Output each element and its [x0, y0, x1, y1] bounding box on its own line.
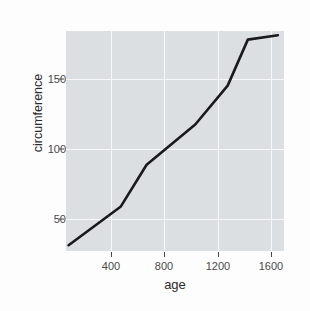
series-line-circumference	[66, 31, 284, 251]
y-tick-label-150: 150	[6, 73, 66, 85]
y-tick-mark-100	[59, 149, 64, 150]
x-tick-label-1200: 1200	[188, 260, 248, 272]
x-tick-label-1600: 1600	[241, 260, 301, 272]
y-tick-mark-150	[59, 79, 64, 80]
x-tick-mark-400	[111, 252, 112, 257]
x-axis-title: age	[66, 277, 284, 292]
x-tick-label-400: 400	[81, 260, 141, 272]
x-tick-mark-1600	[271, 252, 272, 257]
chart-canvas: circumference 50 100 150 400 800 1200 16…	[0, 0, 310, 311]
x-tick-mark-800	[164, 252, 165, 257]
x-tick-label-800: 800	[134, 260, 194, 272]
y-tick-label-100: 100	[6, 143, 66, 155]
y-axis-title: circumference	[31, 13, 45, 213]
plot-panel	[66, 31, 284, 251]
y-tick-mark-50	[59, 219, 64, 220]
y-tick-label-50: 50	[6, 213, 66, 225]
x-tick-mark-1200	[218, 252, 219, 257]
